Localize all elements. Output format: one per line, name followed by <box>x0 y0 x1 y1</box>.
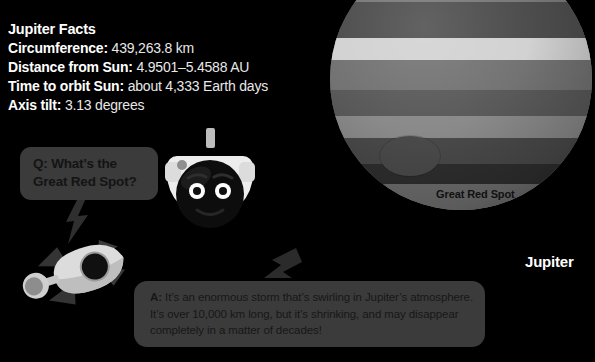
planet-band <box>330 2 592 38</box>
fact-value: 3.13 degrees <box>65 97 144 113</box>
answer-bubble: A: It’s an enormous storm that’s swirlin… <box>134 281 485 347</box>
planet-band <box>330 164 592 184</box>
fact-label: Distance from Sun: <box>8 59 133 75</box>
answer-prefix: A: <box>150 291 162 303</box>
fact-label: Time to orbit Sun: <box>8 78 124 94</box>
jupiter-facts-block: Jupiter Facts Circumference: 439,263.8 k… <box>8 20 268 115</box>
planet-name-label: Jupiter <box>525 253 574 270</box>
lightning-bolt-icon-question <box>58 198 94 244</box>
planet-band <box>330 60 592 90</box>
fact-label: Axis tilt: <box>8 97 61 113</box>
planet-band <box>330 138 592 164</box>
planet-band <box>330 116 592 138</box>
question-text: Q: What’s the Great Red Spot? <box>33 155 150 191</box>
fact-label: Circumference: <box>8 40 108 56</box>
jupiter-planet <box>330 0 592 210</box>
great-red-spot <box>380 136 440 176</box>
poster-canvas: Great Red Spot Jupiter Jupiter Facts Cir… <box>0 0 595 362</box>
planet-band <box>330 90 592 116</box>
facts-rows: Circumference: 439,263.8 kmDistance from… <box>8 39 268 115</box>
fact-value: about 4,333 Earth days <box>128 78 268 94</box>
fact-value: 439,263.8 km <box>112 40 194 56</box>
planet-band <box>330 38 592 60</box>
question-line-2: Great Red Spot? <box>33 174 137 189</box>
answer-text: A: It’s an enormous storm that’s swirlin… <box>150 289 473 339</box>
fact-row: Time to orbit Sun: about 4,333 Earth day… <box>8 77 268 96</box>
fact-row: Distance from Sun: 4.9501–5.4588 AU <box>8 58 268 77</box>
facts-title: Jupiter Facts <box>8 20 268 39</box>
great-red-spot-label: Great Red Spot <box>436 188 515 200</box>
answer-body: It’s an enormous storm that’s swirling i… <box>150 291 473 336</box>
question-bubble: Q: What’s the Great Red Spot? <box>20 147 158 200</box>
question-line-1: Q: What’s the <box>33 156 117 171</box>
fact-row: Axis tilt: 3.13 degrees <box>8 96 268 115</box>
astronaut-icon <box>155 128 265 246</box>
fact-row: Circumference: 439,263.8 km <box>8 39 268 58</box>
planet-disc <box>330 0 592 210</box>
fact-value: 4.9501–5.4588 AU <box>136 59 249 75</box>
